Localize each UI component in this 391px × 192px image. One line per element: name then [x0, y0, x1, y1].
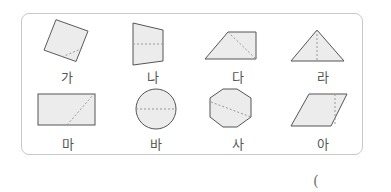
- rotated-square-icon: [27, 18, 107, 68]
- shape-ma: 마: [28, 85, 108, 155]
- rectangle-icon: [28, 85, 108, 135]
- shape-label-da: 다: [198, 67, 278, 86]
- answer-parenthesis: (: [313, 172, 319, 190]
- triangle-icon: [283, 18, 363, 68]
- shape-label-ga: 가: [27, 67, 107, 86]
- shape-label-sa: 사: [198, 134, 278, 153]
- shape-sa: 사: [198, 85, 278, 155]
- circle-icon: [116, 85, 196, 135]
- shape-label-ra: 라: [283, 67, 363, 86]
- shape-label-na: 나: [113, 67, 193, 86]
- parallelogram-icon: [283, 85, 363, 135]
- shape-na: 나: [113, 18, 193, 88]
- shape-label-a: 아: [283, 134, 363, 153]
- trapezoid-icon: [113, 18, 193, 68]
- shape-da: 다: [198, 18, 278, 88]
- shape-ba: 바: [116, 85, 196, 155]
- shape-ra: 라: [283, 18, 363, 88]
- shape-a: 아: [283, 85, 363, 155]
- right-trapezoid-icon: [198, 18, 278, 68]
- shape-ga: 가: [27, 18, 107, 88]
- octagon-icon: [198, 85, 278, 135]
- shape-label-ba: 바: [116, 134, 196, 153]
- shape-label-ma: 마: [28, 134, 108, 153]
